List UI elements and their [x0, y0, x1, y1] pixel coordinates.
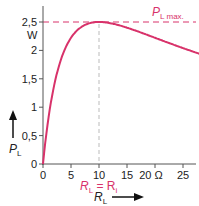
y-axis-label: PL [9, 142, 22, 158]
x-tick-label: 5 [68, 169, 74, 181]
y-unit-label: W [27, 29, 38, 41]
x-tick-label: 15 [121, 169, 133, 181]
y-tick-label: 2,5 [22, 16, 37, 28]
y-tick-label: 0,5 [22, 130, 37, 142]
y-tick-label: 0 [31, 158, 37, 170]
pmax-label: PLmax. [152, 5, 184, 21]
y-arrowhead-icon [9, 110, 17, 120]
power-curve-chart: 00,511,522,5 05101520 Ω25 W PLmax. PL RL… [0, 0, 199, 206]
x-tick-label: 0 [40, 169, 46, 181]
x-tick-label: 20 Ω [139, 169, 163, 181]
x-arrowhead-icon [134, 193, 144, 201]
x-tick-label: 25 [177, 169, 189, 181]
y-tick-label: 2 [31, 44, 37, 56]
power-curve [43, 22, 199, 164]
y-tick-label: 1 [31, 101, 37, 113]
y-tick-label: 1,5 [22, 73, 37, 85]
